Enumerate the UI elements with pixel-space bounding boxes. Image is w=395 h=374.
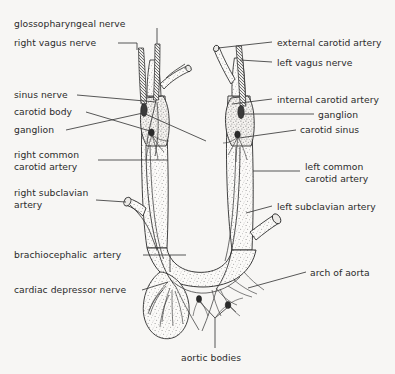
leader-external-carotid: [218, 42, 272, 48]
label-brachiocephalic-artery: brachiocephalic artery: [14, 249, 121, 261]
right-external-carotid-artery: [160, 66, 190, 89]
leader-ganglion-left: [66, 113, 143, 130]
leader-lines: [66, 28, 314, 348]
label-carotid-body: carotid body: [14, 106, 72, 118]
label-ganglion-left: ganglion: [14, 124, 54, 136]
label-ganglion-right: ganglion: [318, 109, 358, 121]
leader-arch-of-aorta: [248, 272, 306, 288]
label-right-subclavian-artery: right subclavian artery: [14, 187, 88, 210]
right-glossopharyngeal-nerve: [154, 44, 161, 100]
leader-aortic-bodies-fork-right: [215, 307, 228, 318]
label-right-common-carotid-artery: right common carotid artery: [14, 149, 79, 172]
label-arch-of-aorta: arch of aorta: [310, 267, 370, 279]
left-ganglion: [238, 105, 244, 118]
left-external-carotid-artery: [214, 47, 235, 84]
diagram-page: glossopharyngeal nerve right vagus nerve…: [0, 0, 395, 374]
aortic-body-tufts: [193, 298, 243, 317]
label-external-carotid-artery: external carotid artery: [277, 37, 382, 49]
label-glossopharyngeal-nerve: glossopharyngeal nerve: [14, 18, 126, 30]
leader-left-vagus-nerve: [240, 60, 272, 62]
leader-right-vagus-nerve: [118, 43, 137, 50]
label-internal-carotid-artery: internal carotid artery: [277, 94, 379, 106]
label-cardiac-depressor-nerve: cardiac depressor nerve: [14, 284, 126, 296]
right-vagus-nerve: [139, 48, 147, 104]
label-left-common-carotid-artery: left common carotid artery: [305, 161, 368, 184]
label-right-vagus-nerve: right vagus nerve: [14, 37, 96, 49]
vessel-group: [122, 44, 282, 338]
label-aortic-bodies: aortic bodies: [181, 352, 241, 364]
label-sinus-nerve: sinus nerve: [14, 89, 68, 101]
label-carotid-sinus: carotid sinus: [300, 124, 359, 136]
right-carotid-body: [149, 129, 155, 136]
label-left-vagus-nerve: left vagus nerve: [277, 57, 352, 69]
leader-right-subclavian: [96, 200, 126, 202]
label-left-subclavian-artery: left subclavian artery: [277, 201, 376, 213]
